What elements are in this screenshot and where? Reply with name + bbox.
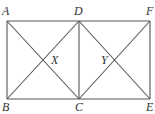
label-f: F (145, 4, 154, 18)
label-e: E (145, 100, 154, 114)
label-x: X (50, 53, 59, 67)
label-d: D (73, 4, 83, 18)
label-c: C (75, 100, 84, 114)
label-y: Y (101, 53, 109, 67)
figure-lines (7, 21, 150, 99)
label-a: A (1, 4, 10, 18)
label-b: B (2, 100, 10, 114)
geometry-diagram: A D F B C E X Y (0, 0, 155, 114)
